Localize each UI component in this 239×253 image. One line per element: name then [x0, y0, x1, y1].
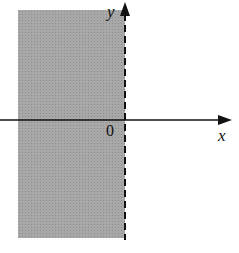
y-axis-label: y	[107, 2, 115, 22]
x-axis-arrow-icon	[218, 115, 232, 125]
origin-label: 0	[106, 122, 114, 140]
y-axis-arrow-icon	[120, 2, 130, 16]
x-axis-label: x	[218, 126, 226, 146]
coordinate-axes	[0, 0, 239, 253]
